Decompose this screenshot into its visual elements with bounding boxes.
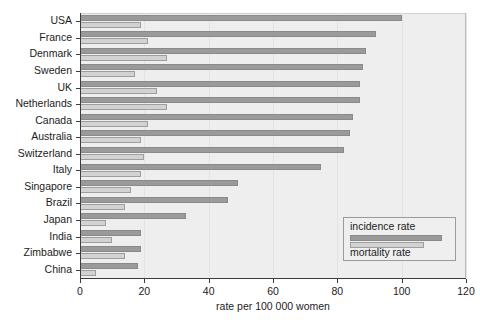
y-tick-mark — [76, 253, 80, 254]
y-tick-label: Canada — [0, 115, 72, 126]
x-axis-title: rate per 100 000 women — [80, 300, 466, 312]
bar-mortality — [80, 237, 112, 243]
bar-mortality — [80, 220, 106, 226]
y-tick-mark — [76, 88, 80, 89]
x-tick-label: 100 — [393, 285, 411, 297]
y-tick-label: Japan — [0, 214, 72, 225]
x-tick-mark — [80, 279, 81, 283]
legend-label-incidence: incidence rate — [350, 220, 415, 232]
bar-incidence — [80, 263, 138, 269]
bar-row — [80, 112, 466, 129]
y-axis-line — [80, 13, 81, 279]
y-tick-mark — [76, 187, 80, 188]
y-tick-label: Australia — [0, 131, 72, 142]
bar-row — [80, 96, 466, 113]
bar-incidence — [80, 197, 228, 203]
y-tick-mark — [76, 220, 80, 221]
bar-mortality — [80, 204, 125, 210]
bar-mortality — [80, 55, 167, 61]
y-tick-label: Sweden — [0, 65, 72, 76]
y-tick-mark — [76, 270, 80, 271]
y-tick-label: Singapore — [0, 181, 72, 192]
y-tick-label: USA — [0, 15, 72, 26]
bar-row — [80, 146, 466, 163]
x-tick-mark — [337, 279, 338, 283]
bar-row — [80, 30, 466, 47]
bar-mortality — [80, 171, 141, 177]
bar-incidence — [80, 48, 366, 54]
x-tick-label: 40 — [203, 285, 215, 297]
x-tick-mark — [402, 279, 403, 283]
bar-incidence — [80, 31, 376, 37]
x-tick-mark — [209, 279, 210, 283]
bar-incidence — [80, 64, 363, 70]
bar-row — [80, 13, 466, 30]
y-tick-label: France — [0, 32, 72, 43]
bar-incidence — [80, 213, 186, 219]
bar-mortality — [80, 22, 141, 28]
y-tick-mark — [76, 203, 80, 204]
grouped-bar-chart: USAFranceDenmarkSwedenUKNetherlandsCanad… — [0, 0, 480, 326]
x-tick-mark — [273, 279, 274, 283]
legend-swatch-incidence — [350, 235, 442, 241]
x-tick-label: 60 — [267, 285, 279, 297]
bar-incidence — [80, 15, 402, 21]
bar-incidence — [80, 114, 353, 120]
y-tick-mark — [76, 121, 80, 122]
bar-row — [80, 261, 466, 278]
bar-mortality — [80, 104, 167, 110]
bar-mortality — [80, 154, 144, 160]
bar-incidence — [80, 164, 321, 170]
bar-mortality — [80, 88, 157, 94]
y-tick-label: Denmark — [0, 48, 72, 59]
y-tick-mark — [76, 137, 80, 138]
x-tick-mark — [466, 279, 467, 283]
y-tick-mark — [76, 71, 80, 72]
y-tick-mark — [76, 54, 80, 55]
bar-row — [80, 129, 466, 146]
bar-incidence — [80, 81, 360, 87]
y-tick-label: UK — [0, 82, 72, 93]
chart-legend: incidence rate mortality rate — [343, 217, 456, 261]
bar-mortality — [80, 137, 141, 143]
y-tick-label: Zimbabwe — [0, 247, 72, 258]
bar-mortality — [80, 270, 96, 276]
y-tick-label: China — [0, 264, 72, 275]
x-tick-label: 80 — [331, 285, 343, 297]
x-tick-label: 0 — [77, 285, 83, 297]
bar-incidence — [80, 180, 238, 186]
bar-incidence — [80, 130, 350, 136]
bar-row — [80, 46, 466, 63]
x-tick-label: 20 — [138, 285, 150, 297]
y-axis-labels: USAFranceDenmarkSwedenUKNetherlandsCanad… — [0, 13, 76, 278]
bar-incidence — [80, 147, 344, 153]
bar-row — [80, 162, 466, 179]
y-tick-label: Switzerland — [0, 148, 72, 159]
y-tick-label: Italy — [0, 164, 72, 175]
y-tick-mark — [76, 237, 80, 238]
x-tick-label: 120 — [457, 285, 475, 297]
bar-incidence — [80, 230, 141, 236]
y-tick-mark — [76, 170, 80, 171]
y-tick-label: India — [0, 231, 72, 242]
bar-incidence — [80, 246, 141, 252]
x-tick-mark — [144, 279, 145, 283]
y-tick-mark — [76, 154, 80, 155]
bar-mortality — [80, 121, 148, 127]
bar-mortality — [80, 71, 135, 77]
bar-mortality — [80, 187, 131, 193]
bar-row — [80, 195, 466, 212]
bar-mortality — [80, 253, 125, 259]
bar-row — [80, 63, 466, 80]
bar-incidence — [80, 97, 360, 103]
gridline — [466, 13, 467, 278]
y-tick-mark — [76, 38, 80, 39]
y-tick-mark — [76, 21, 80, 22]
legend-label-mortality: mortality rate — [350, 246, 411, 258]
bar-mortality — [80, 38, 148, 44]
y-tick-label: Netherlands — [0, 98, 72, 109]
bar-row — [80, 79, 466, 96]
y-tick-mark — [76, 104, 80, 105]
y-tick-label: Brazil — [0, 197, 72, 208]
bar-row — [80, 179, 466, 196]
